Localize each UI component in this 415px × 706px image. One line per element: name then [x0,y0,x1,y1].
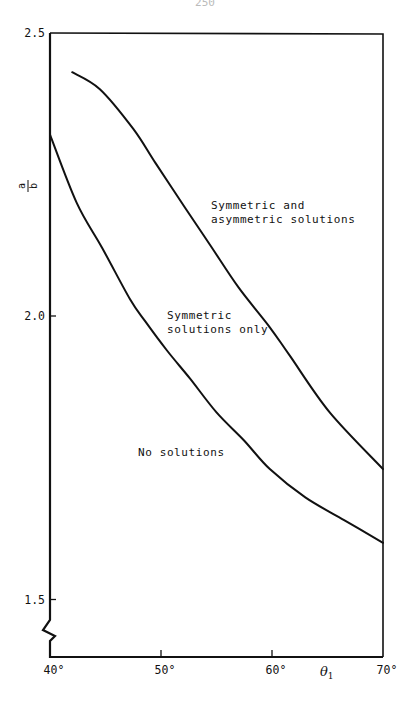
region-label-line: Symmetric and [211,199,305,212]
left-and-bottom-axis [43,33,383,657]
page-number: 250 [195,0,215,9]
x-tick-label: 60° [266,663,287,677]
x-tick-label: 70° [377,663,398,677]
top-and-right-border [50,33,383,657]
x-axis-label-main: θ [320,664,328,679]
region-label-line: asymmetric solutions [211,213,355,226]
region-label-line: Symmetric [167,309,232,322]
y-axis-label-denominator: b [28,183,39,189]
chart-figure: 250 40°50°60°70° 2.52.01.5 a b θ1 Symmet… [0,0,415,706]
plot-frame [43,33,383,657]
region-annotations: Symmetric andasymmetric solutionsSymmetr… [138,199,355,459]
region-label-sym: Symmetricsolutions only [167,309,268,336]
x-tick-label: 50° [155,663,176,677]
chart-canvas: 250 40°50°60°70° 2.52.01.5 a b θ1 Symmet… [0,0,415,706]
y-axis-ticks: 2.52.01.5 [24,26,56,607]
region-label-line: solutions only [167,323,268,336]
x-axis-label-subscript: 1 [328,671,334,681]
x-axis-label: θ1 [320,664,334,681]
y-tick-label: 2.0 [24,309,45,323]
data-series [50,72,383,543]
region-label-both: Symmetric andasymmetric solutions [211,199,355,226]
upper-boundary-curve [72,72,383,469]
x-axis-ticks: 40°50°60°70° [44,650,398,677]
region-label-line: No solutions [138,446,225,459]
lower-boundary-curve [50,135,383,543]
x-tick-label: 40° [44,663,65,677]
y-tick-label: 1.5 [24,593,45,607]
region-label-none: No solutions [138,446,225,459]
y-axis-label-numerator: a [16,183,27,189]
y-axis-label: a b [16,180,39,192]
y-tick-label: 2.5 [24,26,45,40]
